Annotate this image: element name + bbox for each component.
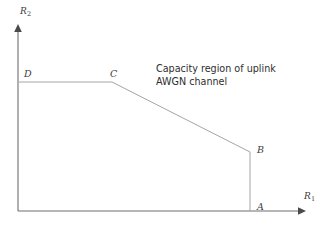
x-axis-label: R1 [304,191,315,201]
region-annotation-line-2: AWGN channel [156,75,306,88]
capacity-region-boundary [19,82,250,211]
x-axis-label-subscript: 1 [311,195,315,203]
vertex-label-d: D [24,68,32,79]
vertex-label-b: B [257,144,264,155]
region-annotation: Capacity region of uplink AWGN channel [156,62,306,88]
capacity-region-figure: R2 R1 D C B A Capacity region of uplink … [0,0,331,225]
plot-canvas [0,0,331,225]
region-annotation-line-1: Capacity region of uplink [156,62,306,75]
vertex-label-a: A [257,201,264,212]
x-axis-arrowhead [298,207,306,215]
y-axis-label-text: R [20,6,27,16]
vertex-label-c: C [110,68,117,79]
y-axis-label-subscript: 2 [27,10,31,18]
x-axis-label-text: R [304,191,311,201]
y-axis-label: R2 [20,6,31,16]
y-axis-arrowhead [14,24,22,32]
